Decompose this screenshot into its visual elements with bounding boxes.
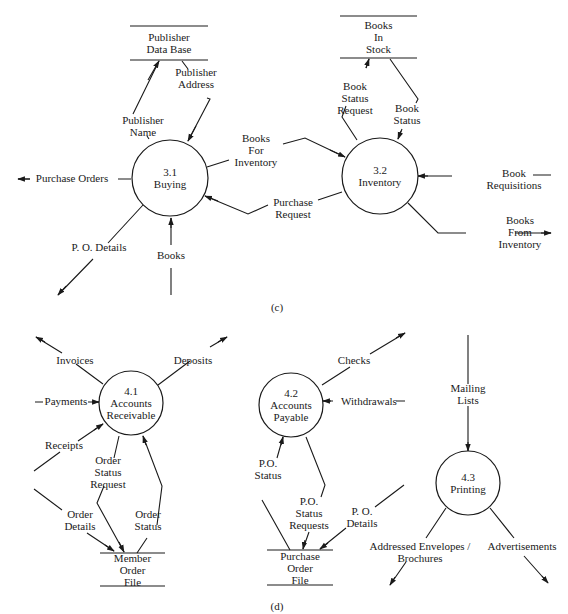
dfd-canvas: PublisherData BaseBooksInStockPublisherN…: [0, 0, 568, 614]
arrowhead-icon: [398, 131, 401, 139]
arrowhead-icon: [36, 337, 45, 342]
flow-ml: MailingLists: [451, 335, 486, 451]
process-4-2: 4.2AccountsPayable: [259, 373, 323, 437]
flow-label: Invoices: [56, 354, 93, 366]
arrowhead-icon: [218, 337, 227, 342]
flow-label: PublisherAddress: [175, 66, 217, 90]
arrowhead-icon: [143, 436, 146, 445]
flow-bfi: BooksForInventory: [207, 132, 345, 168]
flow-label: BookStatusRequest: [337, 80, 372, 116]
dfd-figure: PublisherData BaseBooksInStockPublisherN…: [0, 0, 568, 614]
flow-rec: Receipts: [34, 424, 103, 471]
diagram-c: PublisherData BaseBooksInStockPublisherN…: [18, 16, 551, 295]
flow-bstat: BookStatus: [390, 59, 420, 139]
flow-adv: Advertisements: [487, 508, 556, 583]
flow-po: Purchase Orders: [18, 172, 131, 184]
process-3-1: 3.1Buying: [132, 140, 208, 216]
flow-label: Withdrawals: [341, 395, 397, 407]
flow-inv: Invoices: [36, 337, 103, 384]
flow-label: Purchase Orders: [36, 172, 108, 184]
flow-label: BooksFromInventory: [499, 214, 542, 250]
flow-label: OrderDetails: [64, 508, 95, 532]
flow-bsreq: BookStatusRequest: [337, 59, 372, 140]
caption-c: (c): [271, 301, 284, 314]
flow-breq: BookRequisitions: [418, 167, 551, 191]
flow-label: MailingLists: [451, 382, 486, 406]
flow-label: PublisherName: [122, 114, 164, 138]
process-3-2: 3.2Inventory: [342, 138, 418, 214]
flow-preq: PurchaseRequest: [205, 192, 342, 220]
flow-pubaddr: PublisherAddress: [175, 61, 217, 141]
flow-od: OrderDetails: [34, 489, 114, 551]
flow-pubname: PublisherName: [122, 61, 164, 139]
flow-books: Books: [157, 218, 185, 295]
flow-label: BookStatus: [394, 102, 421, 126]
arrowhead-icon: [396, 333, 405, 338]
arrowhead-icon: [148, 61, 159, 80]
flow-label: PurchaseRequest: [273, 196, 313, 220]
flow-osr: OrderStatusRequest: [90, 436, 125, 552]
arrowhead-icon: [94, 424, 103, 430]
arrowhead-icon: [119, 542, 124, 552]
arrowhead-icon: [320, 543, 328, 549]
flow-aeb: Addressed Envelopes /Brochures: [370, 508, 472, 585]
flow-pod: P. O. Details: [58, 205, 143, 295]
arrowhead-icon: [542, 576, 548, 583]
flow-dep: Deposits: [158, 337, 227, 385]
flow-label: BooksForInventory: [235, 132, 278, 168]
flow-label: OrderStatusRequest: [90, 454, 125, 490]
flow-label: Deposits: [174, 354, 213, 366]
data-store-label: PurchaseOrderFile: [280, 550, 320, 586]
flow-label: Books: [157, 249, 185, 261]
arrowhead-icon: [366, 59, 369, 68]
flow-wd: Withdrawals: [323, 395, 405, 407]
arrowhead-icon: [390, 577, 395, 585]
flow-label: P. O. Details: [72, 241, 127, 253]
arrowhead-icon: [105, 545, 114, 551]
flow-os: OrderStatus: [135, 436, 162, 553]
flow-chk: Checks: [322, 333, 405, 385]
data-store-member: MemberOrderFile: [100, 552, 165, 588]
process-4-3: 4.3Printing: [436, 451, 500, 515]
caption-d: (d): [271, 600, 284, 613]
arrowhead-icon: [330, 150, 345, 157]
flow-pos: P.O.Status: [255, 437, 290, 550]
arrowhead-icon: [58, 286, 66, 295]
diagram-d: MemberOrderFilePurchaseOrderFileInvoices…: [34, 333, 557, 588]
flow-label: Payments: [45, 395, 88, 407]
data-store-stock: BooksInStock: [340, 16, 417, 58]
flow-label: P. O.Details: [346, 505, 377, 529]
data-store-label: BooksInStock: [364, 19, 392, 55]
flow-pay: Payments: [35, 395, 99, 407]
arrowhead-icon: [205, 196, 218, 201]
flow-posr: P.O.StatusRequests: [289, 437, 329, 549]
flow-label: Receipts: [45, 439, 83, 451]
process-4-1: 4.1AccountsReceivable: [99, 371, 163, 435]
flow-label: Advertisements: [487, 540, 556, 552]
data-store-pub: PublisherData Base: [130, 26, 208, 60]
flow-label: BookRequisitions: [486, 167, 541, 191]
flow-bfinv: BooksFromInventory: [408, 203, 551, 250]
arrowhead-icon: [188, 126, 196, 141]
flow-label: Checks: [338, 354, 370, 366]
data-store-pofile: PurchaseOrderFile: [267, 550, 333, 586]
data-store-label: PublisherData Base: [147, 31, 192, 55]
flow-label: P.O.Status: [255, 457, 282, 481]
flow-label: OrderStatus: [135, 508, 162, 532]
flow-label: P.O.StatusRequests: [289, 495, 329, 531]
flow-label: Addressed Envelopes /Brochures: [370, 540, 472, 564]
data-store-label: MemberOrderFile: [114, 552, 152, 588]
